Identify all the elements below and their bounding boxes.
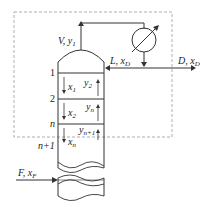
label-plate-n: n [50, 118, 55, 129]
label-plate-1: 1 [50, 67, 55, 78]
label-distillate: D, xD [177, 55, 200, 68]
label-yn1: yn+1 [78, 124, 95, 137]
label-vapor: V, y1 [58, 35, 76, 48]
label-y2: y2 [83, 77, 92, 90]
distillation-diagram: V, y1 L, xD D, xD F, xF 1 2 n n+1 x1 y2 … [0, 0, 208, 207]
control-boundary [14, 12, 172, 137]
label-xn: xn [67, 136, 76, 149]
label-x1: x1 [67, 81, 76, 94]
label-yn: yn [85, 101, 94, 114]
column-dome [58, 50, 104, 62]
label-x2: x2 [67, 107, 76, 120]
label-plate-2: 2 [50, 93, 55, 104]
label-feed: F, xF [17, 167, 37, 180]
label-plate-n1: n+1 [38, 140, 55, 151]
label-reflux: L, xD [109, 55, 130, 68]
